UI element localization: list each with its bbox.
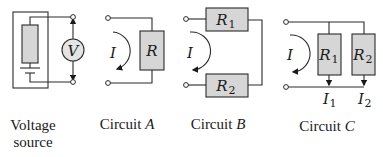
source-top-terminal — [71, 15, 76, 20]
circuit-c-bottom-terminal — [284, 85, 289, 90]
source-bottom-terminal — [71, 80, 76, 85]
circuit-c-top-wire — [288, 22, 364, 34]
circuit-c-branch-1-current-subscript: 1 — [330, 97, 337, 110]
circuit-c-resistor-2-subscript: 2 — [366, 53, 373, 66]
circuit-a-caption-letter: A — [144, 116, 155, 132]
circuit-b-caption-letter: B — [236, 116, 245, 132]
circuit-a-top-terminal — [106, 16, 111, 21]
circuit-a-resistor-label: R — [145, 42, 157, 60]
circuit-b-caption: Circuit B — [191, 116, 246, 132]
circuit-b-current-label: I — [186, 44, 194, 62]
circuit-b-current-arrow-icon — [190, 32, 211, 70]
circuit-a-bottom-terminal — [106, 81, 111, 86]
circuit-b-resistor-1-label: R — [215, 11, 227, 29]
circuit-b-resistor-1-subscript: 1 — [229, 18, 236, 31]
circuit-b-series-wire — [248, 20, 262, 85]
circuit-c-current-label: I — [286, 46, 294, 64]
circuit-c-resistor-1-subscript: 1 — [332, 53, 339, 66]
circuit-b-top-terminal — [184, 17, 189, 22]
circuit-c-resistor-1-label: R — [318, 46, 330, 64]
voltage-source-caption-line-1: Voltage — [10, 117, 56, 133]
circuit-c-top-terminal — [284, 20, 289, 25]
circuit-a-caption: Circuit A — [100, 116, 155, 132]
circuit-a: R I — [106, 16, 164, 86]
circuit-b-resistor-2-subscript: 2 — [229, 84, 236, 97]
circuit-a-current-label: I — [109, 44, 117, 62]
circuit-c-caption-letter: C — [345, 118, 356, 134]
circuit-c-current-arrow-icon — [290, 35, 310, 72]
circuit-b-caption-prefix: Circuit — [191, 116, 233, 132]
circuit-a-top-wire — [110, 18, 152, 31]
voltage-source: V — [13, 12, 84, 88]
voltage-source-caption-line-2: source — [13, 134, 52, 150]
circuit-diagram-figure: V R I R 1 R 2 I R 1 R — [0, 0, 383, 157]
circuit-b: R 1 R 2 I — [184, 8, 262, 97]
circuit-c-branch-2-current-subscript: 2 — [365, 97, 372, 110]
circuit-a-caption-prefix: Circuit — [100, 116, 142, 132]
source-bottom-wire — [30, 73, 73, 82]
circuit-a-bottom-wire — [110, 70, 152, 83]
circuit-c: R 1 R 2 I 1 I 2 I — [284, 20, 375, 110]
circuit-b-resistor-2-label: R — [215, 77, 227, 95]
circuit-c-resistor-2-label: R — [352, 46, 364, 64]
circuit-c-caption-prefix: Circuit — [299, 118, 341, 134]
internal-resistor-symbol — [22, 25, 38, 63]
source-top-wire — [30, 17, 73, 25]
circuit-c-caption: Circuit C — [299, 118, 355, 134]
circuit-b-bottom-terminal — [184, 83, 189, 88]
